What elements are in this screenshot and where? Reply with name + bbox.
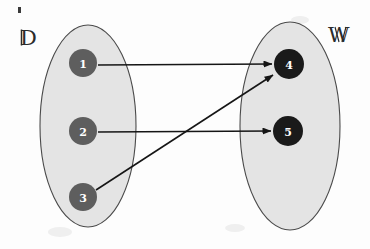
node-1: 1 xyxy=(69,49,97,77)
scan-speck-artifact xyxy=(18,7,21,13)
node-5: 5 xyxy=(273,116,303,146)
domain-set-label: D xyxy=(20,26,37,50)
node-1-label: 1 xyxy=(79,58,87,71)
edge-1-to-4 xyxy=(98,64,272,65)
codomain-set-label-text: W xyxy=(328,23,350,47)
diagram-canvas: 1 2 3 4 5 D W xyxy=(0,0,370,249)
domain-set-label-text: D xyxy=(20,26,37,50)
codomain-set-label: W xyxy=(328,23,350,47)
function-mapping-diagram: 1 2 3 4 5 D W xyxy=(0,0,370,249)
node-4: 4 xyxy=(274,49,304,79)
node-2: 2 xyxy=(69,117,97,145)
node-4-label: 4 xyxy=(285,59,293,72)
node-5-label: 5 xyxy=(284,126,292,139)
node-3: 3 xyxy=(69,183,97,211)
node-3-label: 3 xyxy=(79,192,87,205)
node-2-label: 2 xyxy=(79,126,87,139)
